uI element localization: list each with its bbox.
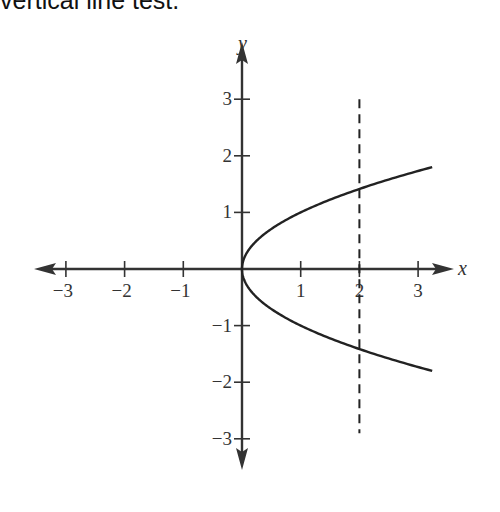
x-tick-label: 3 [413,280,423,301]
y-axis-name: y [236,32,247,55]
x-tick-label: −3 [53,280,73,301]
x-tick-label: −2 [111,280,131,301]
y-tick-label: −3 [212,428,232,449]
x-tick-label: 1 [296,280,306,301]
y-tick-label: 2 [223,145,233,166]
y-tick-label: 3 [223,88,233,109]
x-tick-label: −1 [170,280,190,301]
x-axis-name: x [457,257,467,279]
y-tick-label: −2 [212,371,232,392]
y-tick-label: −1 [212,315,232,336]
y-tick-label: 1 [223,201,233,222]
chart: xy−3−2−1123−3−2−1123 [0,0,500,512]
